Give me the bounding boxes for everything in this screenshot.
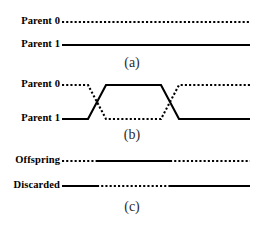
panel-caption-c: (c) bbox=[112, 200, 152, 214]
panel-a-strands bbox=[62, 22, 250, 45]
panel-caption-b: (b) bbox=[112, 128, 152, 142]
crossover-diagram: Parent 0 Parent 1 Parent 0 Parent 1 Offs… bbox=[0, 0, 267, 230]
strand-artwork bbox=[0, 0, 267, 230]
panel-c-strands bbox=[62, 161, 250, 186]
panel-b-strands bbox=[62, 85, 250, 119]
parent1-strand-b bbox=[62, 85, 250, 119]
panel-caption-a: (a) bbox=[112, 56, 152, 70]
